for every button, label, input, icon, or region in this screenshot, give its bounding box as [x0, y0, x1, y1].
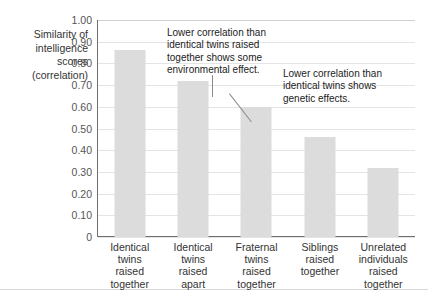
y-tick-label: 0.50	[72, 123, 92, 134]
x-axis-category-labels: IdenticaltwinsraisedtogetherIdenticaltwi…	[98, 241, 415, 289]
bar[interactable]	[114, 50, 145, 237]
y-tick-label: 0	[86, 232, 92, 243]
category-label-line: twins	[158, 253, 228, 265]
category-label-line: Unrelated	[348, 241, 418, 253]
y-tick-label: 0.10	[72, 210, 92, 221]
y-tick-label: 0.30	[72, 167, 92, 178]
y-tick-label: 0.40	[72, 145, 92, 156]
y-tick-label: 0.60	[72, 102, 92, 113]
category-label-line: Identical	[158, 241, 228, 253]
gridline: 0	[98, 237, 415, 238]
category-label-line: twins	[222, 253, 292, 265]
y-tick-label: 0.90	[72, 36, 92, 47]
x-axis-category-label: Fraternaltwinsraisedtogether	[222, 241, 292, 290]
annotation-leader-line-1	[212, 75, 213, 97]
category-label-line: Fraternal	[222, 241, 292, 253]
bar[interactable]	[241, 107, 272, 237]
category-label-line: together	[222, 278, 292, 290]
category-label-line: raised	[222, 265, 292, 277]
bar[interactable]	[304, 137, 335, 237]
x-axis-category-label: Unrelatedindividualsraisedtogether	[348, 241, 418, 290]
category-label-line: Siblings	[285, 241, 355, 253]
bar-slot	[352, 20, 415, 237]
y-tick-label: 0.70	[72, 80, 92, 91]
bar-slot	[98, 20, 161, 237]
category-label-line: apart	[158, 278, 228, 290]
x-axis-category-label: Identicaltwinsraisedtogether	[95, 241, 165, 290]
y-tick-label: 0.80	[72, 58, 92, 69]
bar[interactable]	[178, 81, 209, 237]
annotation-environmental-effect: Lower correlation than identical twins r…	[167, 27, 279, 77]
category-label-line: together	[348, 278, 418, 290]
category-label-line: raised	[158, 265, 228, 277]
category-label-line: twins	[95, 253, 165, 265]
bar-slot	[288, 20, 351, 237]
bar[interactable]	[368, 168, 399, 237]
category-label-line: Identical	[95, 241, 165, 253]
annotation-genetic-effects: Lower correlation than identical twins s…	[283, 68, 403, 105]
category-label-line: raised	[285, 253, 355, 265]
x-axis-category-label: Siblingsraisedtogether	[285, 241, 355, 278]
x-axis-category-label: Identicaltwinsraisedapart	[158, 241, 228, 290]
category-label-line: individuals	[348, 253, 418, 265]
category-label-line: together	[95, 278, 165, 290]
category-label-line: raised	[348, 265, 418, 277]
y-tick-label: 0.20	[72, 188, 92, 199]
y-tick-label: 1.00	[72, 15, 92, 26]
category-label-line: raised	[95, 265, 165, 277]
category-label-line: together	[285, 265, 355, 277]
chart-figure: Similarity of intelligence scores (corre…	[0, 0, 428, 290]
